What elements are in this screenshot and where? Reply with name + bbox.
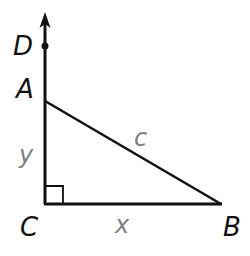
label-a: A [14, 74, 34, 104]
side-ab [45, 101, 221, 204]
right-angle-marker [45, 186, 63, 204]
label-d: D [13, 31, 33, 61]
label-side-c: c [134, 124, 147, 152]
label-side-x: x [114, 211, 130, 239]
label-c: C [20, 212, 39, 242]
point-d-dot [42, 43, 49, 50]
triangle-diagram: D A C B y x c [0, 0, 250, 256]
label-b: B [223, 212, 241, 242]
label-side-y: y [18, 141, 34, 169]
